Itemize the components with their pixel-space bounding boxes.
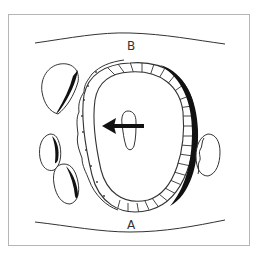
satellite-upper-left bbox=[42, 64, 79, 114]
inner-lumen bbox=[122, 111, 136, 150]
central-ring bbox=[83, 62, 198, 214]
satellite-mid-left bbox=[39, 134, 60, 171]
satellite-right bbox=[196, 134, 220, 176]
label-b: B bbox=[127, 40, 135, 52]
satellite-lower-left bbox=[53, 164, 78, 204]
label-a: A bbox=[127, 219, 135, 231]
dark-crescent bbox=[160, 65, 198, 206]
